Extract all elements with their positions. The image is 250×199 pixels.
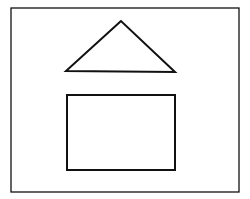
rectangle-shape (67, 95, 175, 170)
drawing-canvas (0, 0, 250, 199)
triangle-shape (66, 21, 175, 72)
outer-frame (11, 8, 239, 192)
